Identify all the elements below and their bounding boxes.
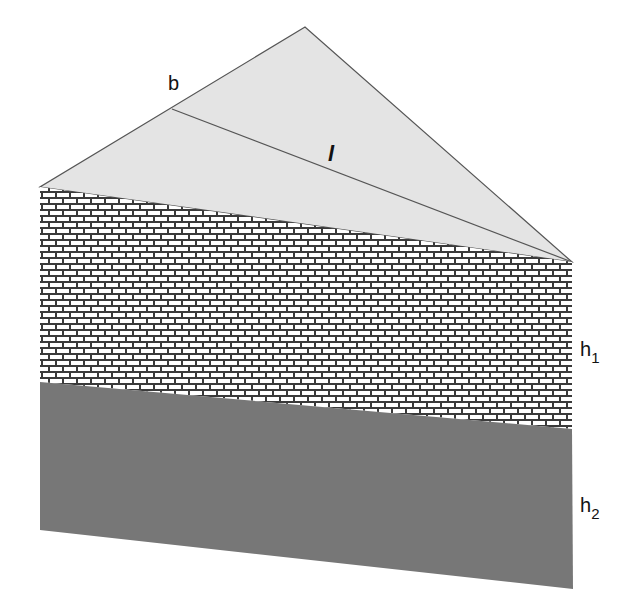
label-h2-main: h: [580, 494, 591, 516]
label-l: l: [328, 141, 335, 166]
diagram-canvas: b l h1 h2: [0, 0, 634, 615]
label-h2-sub: 2: [591, 505, 599, 522]
label-h1: h1: [580, 338, 599, 366]
label-b: b: [168, 72, 179, 94]
label-h1-main: h: [580, 338, 591, 360]
label-h1-sub: 1: [591, 349, 599, 366]
label-h2: h2: [580, 494, 599, 522]
